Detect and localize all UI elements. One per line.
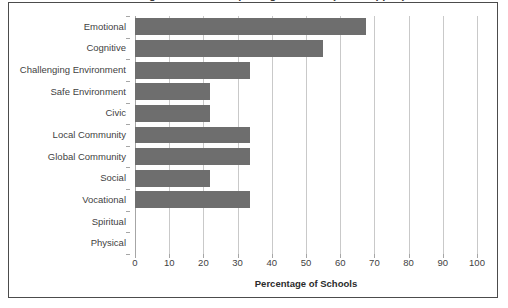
y-axis-label-safe-environment: Safe Environment xyxy=(50,87,126,97)
bar-row xyxy=(135,18,477,35)
x-axis-tick-labels: 0102030405060708090100 xyxy=(135,258,477,272)
bar-social xyxy=(135,170,210,187)
y-axis-tick xyxy=(126,59,130,60)
y-axis-label-vocational: Vocational xyxy=(82,195,126,205)
x-axis-tick-label-20: 20 xyxy=(198,258,209,268)
y-axis-label-physical: Physical xyxy=(91,238,126,248)
y-axis-label-cognitive: Cognitive xyxy=(86,43,126,53)
y-axis-tick xyxy=(126,81,130,82)
x-axis-tick xyxy=(443,254,444,258)
x-axis-tick-label-70: 70 xyxy=(369,258,380,268)
bar-local-community xyxy=(135,127,250,144)
bar-series xyxy=(135,16,477,254)
y-axis-label-challenging-environment: Challenging Environment xyxy=(20,65,126,75)
y-axis-tick xyxy=(126,232,130,233)
x-axis-tick-label-30: 30 xyxy=(232,258,243,268)
x-axis-tick-label-50: 50 xyxy=(301,258,312,268)
x-axis-tick xyxy=(374,254,375,258)
bar-row xyxy=(135,40,477,57)
bar-safe-environment xyxy=(135,83,210,100)
x-axis-tick xyxy=(306,254,307,258)
bar-global-community xyxy=(135,148,250,165)
x-axis-tick-label-60: 60 xyxy=(335,258,346,268)
bar-row xyxy=(135,105,477,122)
y-axis-label-emotional: Emotional xyxy=(84,22,126,32)
x-axis-tick-label-40: 40 xyxy=(267,258,278,268)
y-axis-category-labels: EmotionalCognitiveChallenging Environmen… xyxy=(6,16,130,254)
x-axis-tick-label-0: 0 xyxy=(132,258,137,268)
x-axis-tick xyxy=(477,254,478,258)
bar-row xyxy=(135,62,477,79)
bar-row xyxy=(135,170,477,187)
y-axis-label-local-community: Local Community xyxy=(53,130,126,140)
bar-row xyxy=(135,191,477,208)
bar-row xyxy=(135,83,477,100)
y-axis-tick xyxy=(126,146,130,147)
y-axis-tick xyxy=(126,254,130,255)
y-axis-tick xyxy=(126,211,130,212)
x-axis-tick-label-80: 80 xyxy=(403,258,414,268)
bar-vocational xyxy=(135,191,250,208)
bar-cognitive xyxy=(135,40,323,57)
x-axis-tick-label-10: 10 xyxy=(164,258,175,268)
y-axis-tick xyxy=(126,167,130,168)
y-axis-tick xyxy=(126,189,130,190)
y-axis-label-civic: Civic xyxy=(105,108,126,118)
bar-row xyxy=(135,127,477,144)
y-axis-tick xyxy=(126,103,130,104)
chart-container: Percentage of Schools Reporting Each Aim… xyxy=(0,0,508,308)
gridline-100 xyxy=(477,16,478,254)
bar-row xyxy=(135,148,477,165)
x-axis-title: Percentage of Schools xyxy=(135,278,477,289)
y-axis-label-social: Social xyxy=(100,173,126,183)
bar-civic xyxy=(135,105,210,122)
x-axis-tick-label-90: 90 xyxy=(438,258,449,268)
x-axis-tick-label-100: 100 xyxy=(469,258,485,268)
x-axis-tick xyxy=(340,254,341,258)
y-axis-label-global-community: Global Community xyxy=(48,152,126,162)
y-axis-tick xyxy=(126,124,130,125)
x-axis-tick xyxy=(203,254,204,258)
y-axis-tick xyxy=(126,16,130,17)
y-axis-tick xyxy=(126,38,130,39)
x-axis-tick xyxy=(409,254,410,258)
plot-area xyxy=(135,16,477,254)
chart-title: Percentage of Schools Reporting Each Aim… xyxy=(0,0,508,1)
bar-row xyxy=(135,213,477,230)
y-axis-label-spiritual: Spiritual xyxy=(92,217,126,227)
x-axis-tick xyxy=(272,254,273,258)
x-axis-tick xyxy=(135,254,136,258)
x-axis-tick xyxy=(169,254,170,258)
x-axis-tick xyxy=(238,254,239,258)
bar-challenging-environment xyxy=(135,62,250,79)
bar-row xyxy=(135,235,477,252)
bar-emotional xyxy=(135,18,366,35)
